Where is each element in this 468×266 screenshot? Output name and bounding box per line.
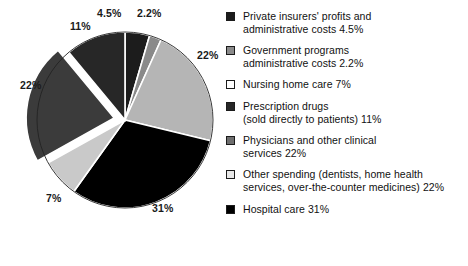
legend-item-label: Hospital care 31% [243, 203, 329, 216]
legend-item[interactable]: Nursing home care 7% [226, 78, 466, 91]
pie-pct-label-other-spending: 22% [20, 80, 41, 91]
legend-item-label: Nursing home care 7% [243, 78, 351, 91]
legend-swatch-icon [226, 80, 235, 89]
legend-item[interactable]: Private insurers' profits and administra… [226, 10, 466, 35]
pie-pct-label-nursing: 7% [46, 193, 61, 204]
legend-item-label: Government programs administrative costs… [243, 44, 363, 69]
legend-item-label: Private insurers' profits and administra… [243, 10, 371, 35]
legend-swatch-icon [226, 46, 235, 55]
legend-swatch-icon [226, 136, 235, 145]
legend-swatch-icon [226, 102, 235, 111]
pie-chart-figure: 4.5%2.2%22%31%7%22%11% Private insurers'… [0, 0, 468, 266]
pie-chart-svg [0, 0, 228, 266]
legend-item[interactable]: Prescription drugs (sold directly to pat… [226, 100, 466, 125]
legend-item[interactable]: Government programs administrative costs… [226, 44, 466, 69]
legend-item-label: Prescription drugs (sold directly to pat… [243, 100, 382, 125]
legend-item[interactable]: Other spending (dentists, home health se… [226, 168, 466, 193]
pie-chart-plot-area: 4.5%2.2%22%31%7%22%11% [0, 0, 228, 266]
legend-swatch-icon [226, 205, 235, 214]
pie-pct-label-government: 2.2% [137, 8, 161, 19]
legend-item[interactable]: Hospital care 31% [226, 203, 466, 216]
pie-pct-label-private-insurers: 4.5% [97, 8, 121, 19]
legend-item[interactable]: Physicians and other clinical services 2… [226, 134, 466, 159]
legend-swatch-icon [226, 170, 235, 179]
legend-swatch-icon [226, 12, 235, 21]
pie-pct-label-physicians: 22% [197, 50, 218, 61]
legend-item-label: Other spending (dentists, home health se… [243, 168, 444, 193]
pie-pct-label-prescription: 11% [70, 21, 91, 32]
legend-item-label: Physicians and other clinical services 2… [243, 134, 376, 159]
chart-legend: Private insurers' profits and administra… [226, 10, 466, 224]
pie-pct-label-hospital: 31% [152, 203, 173, 214]
